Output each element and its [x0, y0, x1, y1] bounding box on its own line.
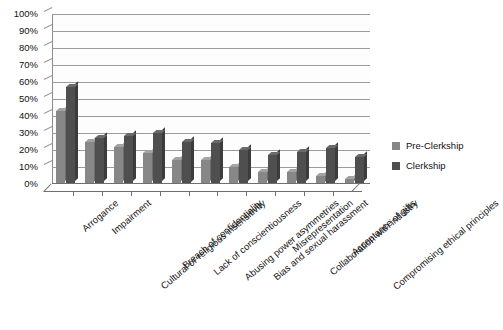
bars-layer	[52, 14, 370, 184]
bar-face	[85, 142, 94, 185]
x-axis-back	[52, 183, 370, 184]
bar-group	[139, 14, 168, 184]
bar-face	[143, 153, 152, 184]
bar-clerkship	[95, 138, 104, 184]
bar-pre-clerkship	[172, 160, 181, 184]
bar-side	[191, 136, 194, 181]
bar-clerkship	[66, 87, 75, 184]
bar-group	[81, 14, 110, 184]
bar-group	[52, 14, 81, 184]
bar-clerkship	[124, 136, 133, 184]
x-axis-category-labels: ArroganceImpairmentCultural or religious…	[44, 196, 503, 316]
x-axis-front	[44, 191, 362, 192]
bar-face	[95, 138, 104, 184]
bar-group	[341, 14, 370, 184]
y-axis-tick-label: 70%	[0, 60, 38, 70]
bar-side	[335, 143, 338, 181]
bar-side	[162, 127, 165, 181]
bar-side	[133, 131, 136, 181]
bar-clerkship	[153, 133, 162, 184]
bar-face	[66, 87, 75, 184]
legend-item-label: Clerkship	[406, 160, 446, 171]
bar-face	[211, 143, 220, 184]
legend-swatch-icon	[392, 162, 400, 170]
bar-face	[326, 148, 335, 184]
bar-group	[312, 14, 341, 184]
bar-clerkship	[355, 157, 364, 184]
bar-pre-clerkship	[143, 153, 152, 184]
bar-face	[124, 136, 133, 184]
y-axis-tick-label: 100%	[0, 9, 38, 19]
axis-skew-left	[43, 183, 51, 192]
y-axis-tick-label: 10%	[0, 162, 38, 172]
gridline-depth-edge	[44, 7, 53, 12]
bar-clerkship	[297, 152, 306, 184]
bar-group	[197, 14, 226, 184]
plot-area	[44, 14, 370, 192]
bar-clerkship	[239, 150, 248, 184]
bar-face	[153, 133, 162, 184]
bar-group	[168, 14, 197, 184]
bar-face	[229, 167, 238, 184]
y-axis-tick-label: 30%	[0, 128, 38, 138]
bar-face	[297, 152, 306, 184]
bar-face	[114, 147, 123, 184]
chart-legend: Pre-ClerkshipClerkship	[392, 140, 464, 180]
bar-pre-clerkship	[114, 147, 123, 184]
bar-pre-clerkship	[85, 142, 94, 185]
legend-swatch-icon	[392, 142, 400, 150]
y-axis-tick-label: 50%	[0, 94, 38, 104]
legend-item: Pre-Clerkship	[392, 140, 464, 151]
y-axis-tick-label: 0%	[0, 179, 38, 189]
bar-side	[104, 132, 107, 181]
bar-face	[355, 157, 364, 184]
bar-pre-clerkship	[229, 167, 238, 184]
bar-clerkship	[268, 155, 277, 184]
y-axis-tick-label: 20%	[0, 145, 38, 155]
bar-face	[172, 160, 181, 184]
legend-item-label: Pre-Clerkship	[406, 140, 464, 151]
y-axis-tick-label: 40%	[0, 111, 38, 121]
bar-face	[201, 160, 210, 184]
bar-clerkship	[182, 142, 191, 185]
bar-face	[239, 150, 248, 184]
bar-group	[254, 14, 283, 184]
bar-group	[225, 14, 254, 184]
bar-side	[220, 138, 223, 181]
bar-clerkship	[211, 143, 220, 184]
bar-side	[75, 81, 78, 181]
bar-face	[182, 142, 191, 185]
legend-item: Clerkship	[392, 160, 464, 171]
y-axis-tick-label: 60%	[0, 77, 38, 87]
bar-face	[56, 111, 65, 184]
bar-face	[268, 155, 277, 184]
bar-group	[110, 14, 139, 184]
axis-skew-right	[351, 183, 359, 192]
y-axis-tick-label: 90%	[0, 26, 38, 36]
bar-side	[248, 144, 251, 181]
y-axis-tick-label: 80%	[0, 43, 38, 53]
bar-clerkship	[326, 148, 335, 184]
bar-group	[283, 14, 312, 184]
bar-pre-clerkship	[201, 160, 210, 184]
bar-pre-clerkship	[56, 111, 65, 184]
